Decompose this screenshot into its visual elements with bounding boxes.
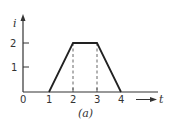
waveform-line xyxy=(49,43,121,92)
ytick-label-1: 1 xyxy=(11,62,17,73)
y-axis-arrow-icon xyxy=(21,14,26,21)
ytick-label-2: 2 xyxy=(10,38,16,49)
x-axis-label: t xyxy=(159,93,164,106)
y-axis-label: i xyxy=(13,17,17,30)
origin-label: 0 xyxy=(20,94,26,105)
figure-caption: (a) xyxy=(78,107,93,120)
trapezoid-chart: i 2 1 0 1 2 3 4 t (a) xyxy=(0,0,177,122)
xtick-label-4: 4 xyxy=(118,94,124,105)
xtick-label-3: 3 xyxy=(94,94,100,105)
xtick-label-1: 1 xyxy=(46,94,52,105)
xtick-label-2: 2 xyxy=(70,94,76,105)
x-direction-arrow-icon xyxy=(150,97,157,102)
